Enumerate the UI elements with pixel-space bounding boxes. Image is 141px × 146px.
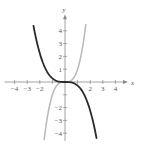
- x-axis-label: x: [130, 79, 135, 87]
- axes: [5, 14, 128, 141]
- y-tick-label: −4: [55, 130, 63, 138]
- x-tick-label: 4: [114, 85, 118, 93]
- chart: −4−3−22344321−2−3−4 x y: [0, 0, 141, 146]
- y-tick-label: 2: [59, 53, 63, 61]
- x-axis-arrow: [123, 80, 128, 84]
- x-tick-label: 3: [101, 85, 105, 93]
- x-tick-label: −4: [11, 85, 19, 93]
- y-tick-label: 4: [59, 27, 63, 35]
- x-tick-label: −3: [23, 85, 31, 93]
- y-axis-arrow: [63, 14, 67, 19]
- y-tick-label: 3: [59, 40, 63, 48]
- x-tick-label: 2: [88, 85, 92, 93]
- y-tick-label: −3: [55, 117, 63, 125]
- y-axis-label: y: [61, 6, 66, 14]
- y-tick-label: −2: [55, 104, 63, 112]
- x-tick-label: −2: [36, 85, 44, 93]
- y-tick-label: 1: [59, 66, 63, 74]
